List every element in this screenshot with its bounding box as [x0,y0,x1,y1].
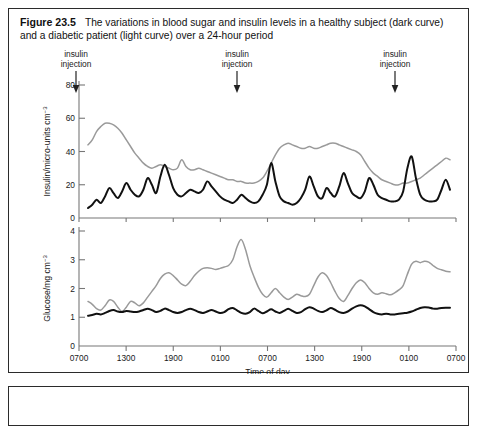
y-tick-label-0-3: 60 [66,113,76,123]
chart-area: 020406080Insulin/micro-units cm−30123407… [9,9,470,374]
y-tick-label-1-1: 1 [70,312,75,322]
series-line-healthy-0 [88,156,450,208]
injection-label-line1-0: insulin [64,49,88,59]
y-tick-label-0-0: 0 [70,213,75,223]
y-axis-title-0: Insulin/micro-units cm−3 [42,106,52,197]
y-axis-title-group-1: Glucose/mg cm−3 [42,255,52,322]
x-tick-label-6: 1900 [352,353,371,363]
x-tick-label-2: 1900 [164,353,183,363]
y-tick-label-1-2: 2 [70,284,75,294]
x-tick-label-8: 0700 [447,353,466,363]
x-axis-title: Time of day [245,367,290,374]
charts-svg: 020406080Insulin/micro-units cm−30123407… [9,9,470,374]
x-tick-label-3: 0100 [211,353,230,363]
down-arrow-icon-2 [392,85,399,93]
x-tick-label-1: 1300 [117,353,136,363]
series-line-diabetic-1 [88,240,450,312]
x-tick-label-0: 0700 [70,353,89,363]
y-tick-label-1-0: 0 [70,341,75,351]
y-axis-title-group-0: Insulin/micro-units cm−3 [42,106,52,197]
figure-panel: Figure 23.5The variations in blood sugar… [8,8,469,373]
y-axis-title-1: Glucose/mg cm−3 [42,255,52,322]
down-arrow-icon-1 [234,85,241,93]
injection-label-line1-2: insulin [383,49,407,59]
x-tick-label-7: 0100 [400,353,419,363]
next-figure-panel [8,386,469,426]
injection-label-line1-1: insulin [225,49,249,59]
injection-label-line2-1: injection [222,59,253,69]
y-tick-label-0-1: 20 [66,180,76,190]
series-line-healthy-1 [88,305,450,316]
injection-label-line2-0: injection [61,59,92,69]
y-tick-label-1-4: 4 [70,226,75,236]
x-tick-label-4: 0700 [258,353,277,363]
y-tick-label-1-3: 3 [70,255,75,265]
x-tick-label-5: 1300 [305,353,324,363]
injection-label-line2-2: injection [380,59,411,69]
y-tick-label-0-2: 40 [66,147,76,157]
